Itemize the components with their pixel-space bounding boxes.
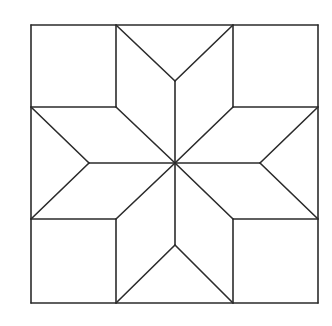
line-segment [260, 107, 318, 163]
line-segment [175, 163, 233, 219]
line-segment [31, 107, 89, 163]
line-segment [116, 25, 175, 81]
line-segment [175, 107, 233, 163]
line-segment [260, 163, 318, 219]
line-segment [116, 245, 175, 303]
line-segment [175, 245, 233, 303]
quilt-block-diagram: Eight-pointed star quilt block [0, 0, 332, 326]
line-segment [116, 163, 175, 219]
star-line-segments [31, 25, 318, 303]
eight-pointed-star-drawing [0, 0, 332, 326]
line-segment [175, 25, 233, 81]
line-segment [116, 107, 175, 163]
line-segment [31, 163, 89, 219]
